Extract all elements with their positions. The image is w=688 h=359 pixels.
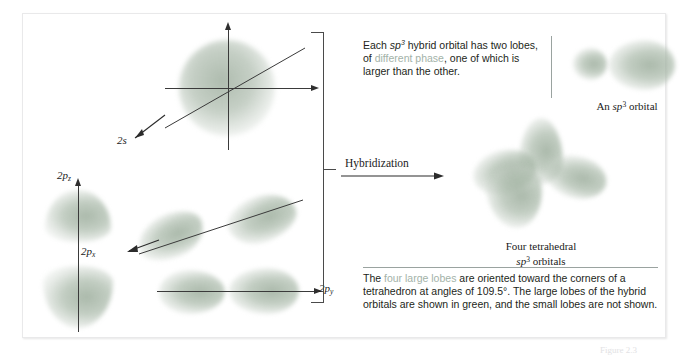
orbital-2pz-group: [31, 174, 127, 339]
grouping-bracket-bottom-hook: [311, 302, 324, 303]
orbital-label-2px: 2px: [81, 245, 95, 259]
sp3-caption-suffix: orbital: [626, 100, 657, 112]
sp3-caption-italic: sp: [613, 100, 623, 112]
axis-z-arrowhead: [225, 22, 231, 30]
orbital-2pz-arrowhead: [75, 178, 81, 186]
top-text-highlight: different phase: [375, 52, 444, 64]
sp3-caption-prefix: An: [596, 100, 612, 112]
orbital-label-2pz: 2pz: [57, 169, 71, 183]
tetrahedral-caption-italic: sp: [516, 255, 526, 267]
hybridization-label: Hybridization: [345, 157, 409, 169]
orbital-2py-axis: [157, 291, 315, 292]
hybridization-arrow: [341, 172, 445, 182]
top-description-text: Each sp3 hybrid orbital has two lobes, o…: [363, 36, 538, 78]
orbital-2pz-axis: [78, 184, 79, 332]
tetrahedral-caption-suffix: orbitals: [530, 255, 566, 267]
orbital-2py-left-lobe: [159, 270, 225, 314]
top-section-divider: [551, 36, 552, 98]
sp3-large-lobe: [609, 40, 675, 90]
axis-x-line: [159, 42, 311, 134]
orbital-label-2py: 2py: [319, 282, 333, 296]
tetrahedral-orbitals-group: [461, 118, 621, 248]
bottom-text-highlight: four large lobes: [384, 272, 456, 284]
orbital-2s-pointer: [127, 110, 173, 144]
sp3-single-orbital-group: [571, 38, 683, 94]
axis-y-arrowhead: [311, 85, 319, 91]
orbital-label-2s: 2s: [117, 134, 127, 146]
grouping-bracket-stem: [323, 32, 324, 302]
orbital-2px-pointer: [117, 236, 163, 258]
orbital-2py-group: [153, 262, 323, 320]
bottom-text-rule: [363, 267, 658, 268]
sp3-small-lobe: [573, 48, 607, 80]
bottom-description-text: The four large lobes are oriented toward…: [363, 272, 659, 312]
tetrahedral-caption-line1: Four tetrahedral: [506, 240, 577, 252]
figure-panel: 2s 2pz 2px 2py Hybridizatio: [22, 13, 666, 338]
sp3-single-orbital-caption: An sp3 orbital: [571, 98, 683, 113]
grouping-bracket-top-hook: [311, 32, 324, 33]
figure-number-caption: Figure 2.3: [600, 345, 637, 355]
grouping-bracket-middle-tick: [323, 169, 336, 170]
tetrahedral-orbitals-caption: Four tetrahedral sp3 orbitals: [461, 240, 621, 268]
